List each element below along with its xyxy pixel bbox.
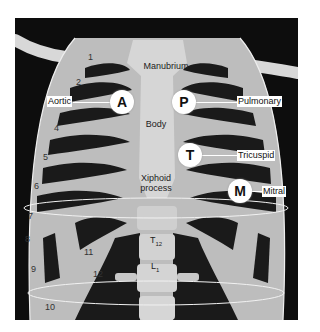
rib-number-6: 6 bbox=[34, 182, 39, 191]
tricuspid-label: Tricuspid bbox=[237, 150, 275, 161]
pulmonary-leader-line bbox=[195, 102, 238, 103]
aortic-leader-line bbox=[73, 102, 113, 103]
manubrium-label: Manubrium bbox=[143, 62, 188, 71]
mitral-point-marker: M bbox=[228, 179, 252, 203]
xiphoid-label-line1: Xiphoid bbox=[141, 174, 171, 183]
pulmonary-label: Pulmonary bbox=[237, 96, 282, 107]
rib-number-2: 2 bbox=[76, 78, 81, 87]
xiphoid-label-line2: process bbox=[140, 184, 172, 193]
mitral-label: Mitral bbox=[262, 186, 286, 197]
rib-number-1: 1 bbox=[88, 53, 93, 62]
aortic-label: Aortic bbox=[47, 96, 72, 107]
rib-number-10: 10 bbox=[45, 303, 55, 312]
t12-label: T12 bbox=[150, 236, 162, 247]
rib-number-9: 9 bbox=[31, 265, 36, 274]
rib-number-11: 11 bbox=[84, 248, 93, 257]
pulmonary-point-marker: P bbox=[172, 90, 196, 114]
rib-number-7: 7 bbox=[28, 212, 33, 221]
rib-number-12: 12 bbox=[93, 270, 103, 279]
l1-label: L1 bbox=[151, 262, 159, 273]
rib-number-4: 4 bbox=[54, 124, 59, 133]
tricuspid-point-marker: T bbox=[178, 143, 202, 167]
aortic-point-marker: A bbox=[110, 90, 134, 114]
rib-number-8: 8 bbox=[25, 235, 30, 244]
sternum-body-label: Body bbox=[146, 120, 167, 129]
tricuspid-leader-line bbox=[201, 155, 237, 156]
rib-number-5: 5 bbox=[43, 153, 48, 162]
